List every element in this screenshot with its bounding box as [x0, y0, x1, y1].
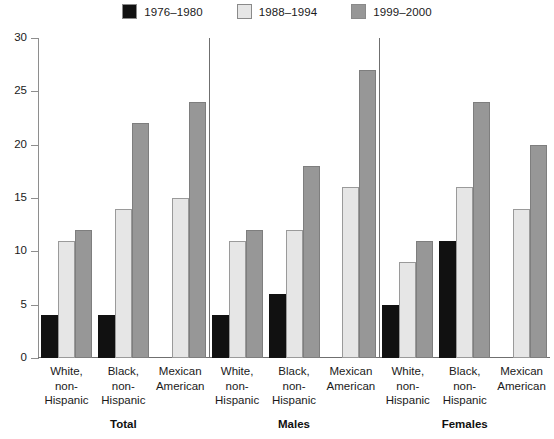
- category-label-line: non-: [379, 379, 436, 394]
- bar: [382, 305, 399, 358]
- bar-group-males: [209, 38, 380, 358]
- y-tick-label: 25: [14, 86, 27, 98]
- bar: [439, 241, 456, 358]
- bar: [41, 315, 58, 358]
- category-label-line: Mexican: [322, 364, 379, 379]
- bar: [359, 70, 376, 358]
- category-label: White,non-Hispanic: [209, 364, 266, 410]
- category-label-line: non-: [38, 379, 95, 394]
- y-tick-label: 5: [21, 299, 27, 311]
- category-group: White,non-HispanicBlack,non-HispanicMexi…: [379, 364, 550, 410]
- bar: [98, 315, 115, 358]
- bar: [189, 102, 206, 358]
- category-label-line: Hispanic: [436, 393, 493, 408]
- category-label-line: non-: [436, 379, 493, 394]
- category-group: White,non-HispanicBlack,non-HispanicMexi…: [38, 364, 209, 410]
- category-label-line: [152, 393, 209, 408]
- category-label-line: Mexican: [152, 364, 209, 379]
- legend-label-1988-1994: 1988–1994: [259, 6, 317, 18]
- category-group: White,non-HispanicBlack,non-HispanicMexi…: [209, 364, 380, 410]
- category-label: Black,non-Hispanic: [95, 364, 152, 410]
- category-label: MexicanAmerican: [493, 364, 550, 410]
- bar-groups: [38, 38, 550, 358]
- category-label-line: White,: [379, 364, 436, 379]
- category-label-line: Black,: [95, 364, 152, 379]
- category-label-line: Hispanic: [209, 393, 266, 408]
- bar: [456, 187, 473, 358]
- legend-item-1999-2000: 1999–2000: [351, 4, 431, 19]
- bar-group-total: [38, 38, 209, 358]
- legend-item-1988-1994: 1988–1994: [237, 4, 317, 19]
- legend-swatch-1999-2000: [351, 4, 366, 19]
- bar: [58, 241, 75, 358]
- category-label-line: Mexican: [493, 364, 550, 379]
- bar-cluster: [436, 38, 493, 358]
- bar: [172, 198, 189, 358]
- bar-cluster: [322, 38, 379, 358]
- bar: [473, 102, 490, 358]
- bar-chart: 1976–1980 1988–1994 1999–2000 3025201510…: [0, 0, 554, 439]
- bar: [303, 166, 320, 358]
- bar-cluster: [152, 38, 209, 358]
- bar: [229, 241, 246, 358]
- bar-cluster: [266, 38, 323, 358]
- category-label: MexicanAmerican: [152, 364, 209, 410]
- bar: [530, 145, 547, 358]
- category-label-line: Hispanic: [38, 393, 95, 408]
- bar-cluster: [493, 38, 550, 358]
- legend-item-1976-1980: 1976–1980: [122, 4, 202, 19]
- panel-label-females: Females: [379, 418, 550, 436]
- bar: [269, 294, 286, 358]
- bar: [416, 241, 433, 358]
- bar: [246, 230, 263, 358]
- y-tick-label: 0: [21, 352, 27, 364]
- bar: [212, 315, 229, 358]
- category-axis-labels: White,non-HispanicBlack,non-HispanicMexi…: [38, 364, 550, 410]
- category-label-line: Hispanic: [266, 393, 323, 408]
- category-label-line: American: [322, 379, 379, 394]
- chart-legend: 1976–1980 1988–1994 1999–2000: [0, 4, 554, 19]
- category-label: Black,non-Hispanic: [436, 364, 493, 410]
- bar-cluster: [209, 38, 266, 358]
- category-label-line: non-: [266, 379, 323, 394]
- category-label-line: White,: [209, 364, 266, 379]
- category-label-line: American: [493, 379, 550, 394]
- plot-area: 302520151050: [38, 38, 550, 358]
- bar: [513, 209, 530, 358]
- category-label: Black,non-Hispanic: [266, 364, 323, 410]
- category-label-line: non-: [209, 379, 266, 394]
- bar: [399, 262, 416, 358]
- y-tick-label: 15: [14, 192, 27, 204]
- category-label-line: Hispanic: [379, 393, 436, 408]
- y-tick-mark: [31, 358, 39, 359]
- category-label: MexicanAmerican: [322, 364, 379, 410]
- category-label-line: Black,: [266, 364, 323, 379]
- legend-label-1999-2000: 1999–2000: [373, 6, 431, 18]
- category-label: White,non-Hispanic: [379, 364, 436, 410]
- bar: [342, 187, 359, 358]
- category-label-line: Hispanic: [95, 393, 152, 408]
- legend-label-1976-1980: 1976–1980: [144, 6, 202, 18]
- panel-label-males: Males: [209, 418, 380, 436]
- category-label: White,non-Hispanic: [38, 364, 95, 410]
- category-label-line: [493, 393, 550, 408]
- y-tick-label: 30: [14, 32, 27, 44]
- bar-cluster: [379, 38, 436, 358]
- category-label-line: White,: [38, 364, 95, 379]
- panel-label-total: Total: [38, 418, 209, 436]
- legend-swatch-1976-1980: [122, 4, 137, 19]
- category-label-line: American: [152, 379, 209, 394]
- bar: [115, 209, 132, 358]
- y-tick-label: 20: [14, 139, 27, 151]
- legend-swatch-1988-1994: [237, 4, 252, 19]
- category-label-line: [322, 393, 379, 408]
- y-tick-label: 10: [14, 246, 27, 258]
- bar-cluster: [38, 38, 95, 358]
- bar: [132, 123, 149, 358]
- category-label-line: non-: [95, 379, 152, 394]
- bar: [286, 230, 303, 358]
- panel-axis-labels: Total Males Females: [38, 418, 550, 436]
- bar-group-females: [379, 38, 550, 358]
- bar-cluster: [95, 38, 152, 358]
- bar: [75, 230, 92, 358]
